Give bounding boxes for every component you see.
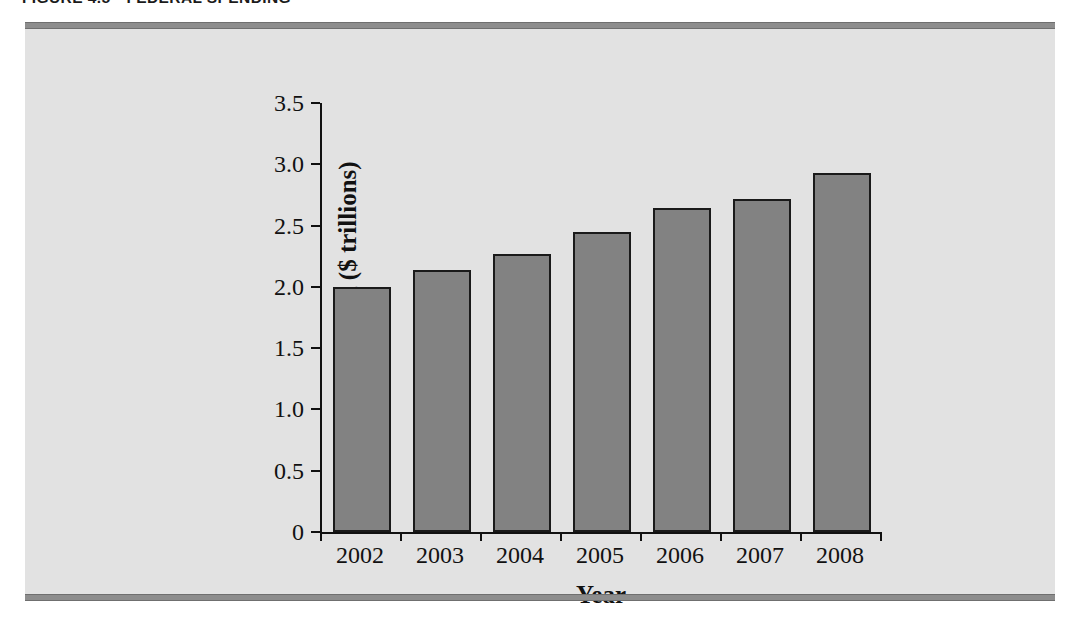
figure-caption: FIGURE 4.5FEDERAL SPENDING <box>22 0 291 7</box>
bar <box>653 208 711 532</box>
y-tick-label: 1.5 <box>244 336 304 360</box>
bar-slot <box>573 103 631 532</box>
x-tick-mark <box>880 532 882 541</box>
y-tick-label: 3.5 <box>244 91 304 115</box>
x-tick-mark <box>560 532 562 541</box>
x-tick-mark <box>400 532 402 541</box>
bar-slot <box>653 103 711 532</box>
y-tick-mark <box>311 347 320 349</box>
bar <box>413 270 471 532</box>
y-tick-mark <box>311 102 320 104</box>
x-tick-mark <box>320 532 322 541</box>
bar <box>493 254 551 532</box>
y-tick-mark <box>311 470 320 472</box>
x-tick-label: 2002 <box>320 543 400 567</box>
y-tick-label: 2.5 <box>244 214 304 238</box>
y-tick-label: 0 <box>244 520 304 544</box>
x-tick-label: 2008 <box>800 543 880 567</box>
y-tick-mark <box>311 163 320 165</box>
figure-number: FIGURE 4.5 <box>22 0 110 6</box>
bottom-rule <box>25 594 1055 601</box>
y-tick-mark <box>311 408 320 410</box>
bar-slot <box>813 103 871 532</box>
bar-slot <box>493 103 551 532</box>
y-tick-label: 1.0 <box>244 397 304 421</box>
x-tick-label: 2004 <box>480 543 560 567</box>
x-tick-mark <box>480 532 482 541</box>
bar <box>573 232 631 532</box>
figure-title: FEDERAL SPENDING <box>126 0 291 6</box>
x-tick-label: 2005 <box>560 543 640 567</box>
x-tick-label: 2007 <box>720 543 800 567</box>
y-tick-label: 3.0 <box>244 152 304 176</box>
top-rule <box>25 22 1055 29</box>
y-tick-label: 0.5 <box>244 459 304 483</box>
bar <box>813 173 871 532</box>
bar-slot <box>333 103 391 532</box>
figure-panel: 00.51.01.52.02.53.03.5 Federal Spending … <box>25 29 1055 594</box>
x-axis-line <box>320 532 882 534</box>
x-tick-mark <box>720 532 722 541</box>
bar-slot <box>413 103 471 532</box>
bar <box>333 287 391 532</box>
bar-series <box>322 103 880 532</box>
x-tick-mark <box>800 532 802 541</box>
x-tick-label: 2006 <box>640 543 720 567</box>
y-tick-mark <box>311 225 320 227</box>
bar-slot <box>733 103 791 532</box>
plot-area: 00.51.01.52.02.53.03.5 Federal Spending … <box>320 103 880 532</box>
y-tick-mark <box>311 286 320 288</box>
x-tick-mark <box>640 532 642 541</box>
y-tick-mark <box>311 531 320 533</box>
bar <box>733 199 791 532</box>
x-tick-label: 2003 <box>400 543 480 567</box>
y-tick-labels: 00.51.01.52.02.53.03.5 <box>244 103 304 532</box>
y-tick-label: 2.0 <box>244 275 304 299</box>
